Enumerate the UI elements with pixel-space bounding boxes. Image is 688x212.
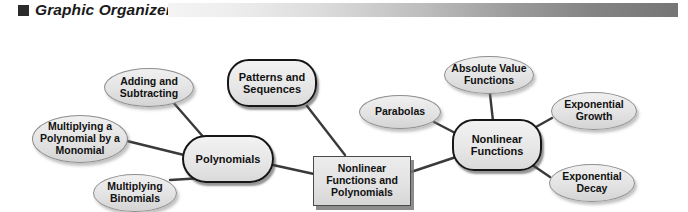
edge-adding-subtracting-polynomials [172,101,206,140]
node-label: Nonlinear Functions and Polynomials [314,163,410,198]
node-adding-and-subtracting[interactable]: Adding and Subtracting [104,68,194,107]
node-multiplying-a-polynomial-by-a-monomial[interactable]: Multiplying a Polynomial by a Monomial [32,115,128,163]
page-header: Graphic Organizer [0,0,688,22]
edge-patterns-sequences-center [307,106,345,155]
node-label: Patterns and Sequences [229,71,315,96]
node-label: Exponential Growth [552,99,636,123]
edge-polynomials-center [273,165,314,174]
node-patterns-and-sequences[interactable]: Patterns and Sequences [227,59,317,107]
node-label: Multiplying Binomials [94,181,176,205]
node-label: Absolute Value Functions [445,63,533,87]
node-multiplying-binomials[interactable]: Multiplying Binomials [93,174,177,212]
node-nonlinear-functions[interactable]: Nonlinear Functions [452,119,542,171]
square-bullet-icon [18,5,29,16]
page-title: Graphic Organizer [35,0,172,20]
node-polynomials[interactable]: Polynomials [182,135,274,183]
node-exponential-growth[interactable]: Exponential Growth [551,92,637,130]
edge-center-nonlinear-functions [411,157,456,172]
node-label: Nonlinear Functions [454,133,540,158]
node-label: Exponential Decay [550,171,634,195]
node-label: Polynomials [192,153,265,165]
node-exponential-decay[interactable]: Exponential Decay [549,164,635,202]
node-label: Multiplying a Polynomial by a Monomial [33,121,127,156]
edge-multiplying-polynomial-polynomials [127,141,184,155]
node-parabolas[interactable]: Parabolas [359,95,441,129]
node-label: Adding and Subtracting [105,76,193,100]
edge-absolute-value-nonlinear-functions [490,94,493,121]
header-gradient-bar [168,3,678,17]
graphic-organizer-diagram: Adding and Subtracting Multiplying a Pol… [0,22,688,212]
node-label: Parabolas [371,106,429,118]
node-center-nonlinear-functions-and-polynomials[interactable]: Nonlinear Functions and Polynomials [313,156,411,206]
node-absolute-value-functions[interactable]: Absolute Value Functions [444,56,534,94]
